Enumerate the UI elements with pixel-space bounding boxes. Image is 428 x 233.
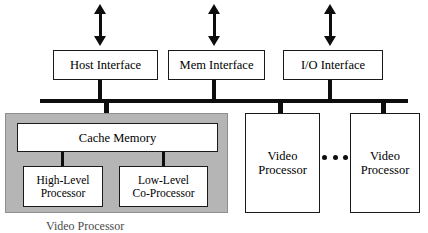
block-label: I/O Interface — [301, 58, 365, 72]
block-label-line2: Processor — [361, 163, 410, 177]
arrow-head-down — [94, 36, 106, 46]
arrow-shaft — [99, 12, 102, 38]
figure-caption: Video Processor — [46, 219, 124, 233]
block-cache-memory: Cache Memory — [17, 123, 218, 152]
arrow-head-down — [324, 36, 336, 46]
block-diagram-canvas: Host Interface Mem Interface I/O Interfa… — [0, 0, 428, 233]
block-label-line1: Video — [258, 149, 307, 163]
block-video-processor-1: Video Processor — [245, 113, 320, 213]
block-io-interface: I/O Interface — [283, 50, 383, 80]
double-arrow-mem-icon — [208, 4, 221, 46]
connector-cache-to-high-level-processor — [61, 152, 64, 166]
ellipsis-dot — [322, 155, 327, 160]
block-label-line2: Processor — [258, 163, 307, 177]
block-low-level-co-processor: Low-Level Co-Processor — [119, 166, 208, 207]
block-label-line2: Processor — [36, 187, 89, 200]
block-label: Host Interface — [70, 58, 141, 72]
block-label-line1: Low-Level — [133, 174, 195, 187]
ellipsis-icon — [322, 152, 348, 162]
block-label-line2: Co-Processor — [133, 187, 195, 200]
system-bus-line — [40, 99, 408, 103]
block-label: Mem Interface — [180, 58, 254, 72]
arrow-shaft — [329, 12, 332, 38]
ellipsis-dot — [343, 155, 348, 160]
double-arrow-io-icon — [324, 4, 337, 46]
block-video-processor-2: Video Processor — [350, 113, 420, 213]
ellipsis-dot — [333, 155, 338, 160]
block-label: Cache Memory — [79, 131, 156, 145]
block-label-line1: High-Level — [36, 174, 89, 187]
block-mem-interface: Mem Interface — [168, 50, 265, 80]
double-arrow-host-icon — [94, 4, 107, 46]
arrow-head-down — [208, 36, 220, 46]
block-high-level-processor: High-Level Processor — [23, 166, 103, 207]
block-host-interface: Host Interface — [53, 50, 158, 80]
connector-cache-to-low-level-co-processor — [162, 152, 165, 166]
arrow-shaft — [213, 12, 216, 38]
block-label-line1: Video — [361, 149, 410, 163]
